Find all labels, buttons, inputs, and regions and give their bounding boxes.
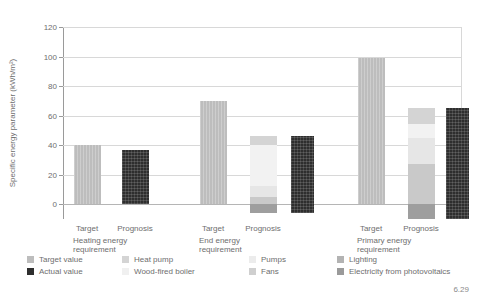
- legend-item: Wood-fired boiler: [122, 266, 195, 277]
- bar-segment: [291, 136, 314, 204]
- bar-segment: [446, 204, 469, 219]
- y-axis-tick: [59, 204, 63, 205]
- bar-stacked: [408, 108, 435, 204]
- y-axis-tick-label: 20: [48, 170, 57, 179]
- bar-target: [74, 145, 101, 204]
- bar-target: [200, 101, 227, 204]
- legend-label: Lighting: [349, 254, 377, 265]
- group-label-3: TargetPrognosisPrimary energyrequirement: [63, 224, 462, 234]
- bar-segment-negative: [250, 204, 277, 213]
- legend-item: Heat pump: [122, 254, 195, 265]
- legend-swatch-icon: [122, 256, 129, 263]
- bar-target: [358, 58, 385, 204]
- legend-item: Lighting: [337, 254, 450, 265]
- y-axis-tick: [59, 175, 63, 176]
- bar-segment: [408, 108, 435, 124]
- y-axis-tick: [59, 27, 63, 28]
- bar-stacked: [250, 136, 277, 204]
- legend-label: Electricity from photovoltaics: [349, 266, 450, 277]
- legend-item: Pumps: [249, 254, 286, 265]
- figure-number: 6.29: [453, 285, 469, 294]
- y-axis-tick: [59, 86, 63, 87]
- bar-segment: [408, 204, 435, 219]
- legend-item: Fans: [249, 266, 286, 277]
- bar-segment: [408, 138, 435, 165]
- group-sublabel: Prognosis: [403, 224, 439, 234]
- legend-swatch-icon: [337, 268, 344, 275]
- bar-segment: [200, 101, 227, 204]
- legend-label: Pumps: [261, 254, 286, 265]
- y-axis-tick-label: 80: [48, 82, 57, 91]
- bar-segment: [74, 145, 101, 204]
- legend-item: Actual value: [27, 266, 83, 277]
- bar-segment: [250, 145, 277, 186]
- legend-column: Target valueActual value: [27, 254, 83, 278]
- bar-segment-negative: [291, 204, 314, 213]
- group-title-line2: requirement: [199, 245, 242, 255]
- y-axis-tick: [59, 145, 63, 146]
- group-sublabel: Target: [360, 224, 382, 234]
- gridline: [63, 27, 462, 28]
- bar-segment: [291, 204, 314, 213]
- legend-swatch-icon: [337, 256, 344, 263]
- bar-segment: [358, 58, 385, 204]
- legend-swatch-icon: [27, 256, 34, 263]
- bar-segment: [250, 136, 277, 145]
- legend-label: Wood-fired boiler: [134, 266, 195, 277]
- bar-segment: [250, 204, 277, 213]
- y-axis-tick-label: 0: [53, 200, 57, 209]
- y-axis-tick-label: 40: [48, 141, 57, 150]
- bar-actual: [446, 108, 469, 204]
- legend-column: PumpsFans: [249, 254, 286, 278]
- bar-segment: [446, 108, 469, 204]
- plot-area: 020406080100120: [63, 27, 462, 219]
- y-axis-tick-label: 60: [48, 111, 57, 120]
- legend-label: Fans: [261, 266, 279, 277]
- chart-figure: Specific energy parameter (kWh/m²) 02040…: [0, 0, 481, 300]
- bar-segment: [408, 164, 435, 204]
- bar-segment-negative: [408, 204, 435, 219]
- y-axis-tick: [59, 116, 63, 117]
- legend-column: Heat pumpWood-fired boiler: [122, 254, 195, 278]
- legend-label: Target value: [39, 254, 83, 265]
- legend-item: Electricity from photovoltaics: [337, 266, 450, 277]
- y-axis-tick: [59, 57, 63, 58]
- gridline: [63, 86, 462, 87]
- legend-item: Target value: [27, 254, 83, 265]
- legend-column: LightingElectricity from photovoltaics: [337, 254, 450, 278]
- legend-swatch-icon: [27, 268, 34, 275]
- y-axis-title: Specific energy parameter (kWh/m²): [8, 27, 19, 219]
- legend-label: Actual value: [39, 266, 83, 277]
- bar-actual: [291, 136, 314, 204]
- bar-segment: [408, 124, 435, 137]
- bar-segment: [250, 186, 277, 196]
- gridline: [63, 116, 462, 117]
- legend-swatch-icon: [249, 268, 256, 275]
- gridline: [63, 57, 462, 58]
- bar-actual: [122, 150, 149, 205]
- legend-swatch-icon: [249, 256, 256, 263]
- bar-segment: [122, 150, 149, 205]
- y-axis-tick-label: 100: [44, 52, 57, 61]
- bar-segment-negative: [446, 204, 469, 219]
- legend-label: Heat pump: [134, 254, 173, 265]
- bar-segment: [250, 197, 277, 204]
- y-axis-tick-label: 120: [44, 23, 57, 32]
- legend-swatch-icon: [122, 268, 129, 275]
